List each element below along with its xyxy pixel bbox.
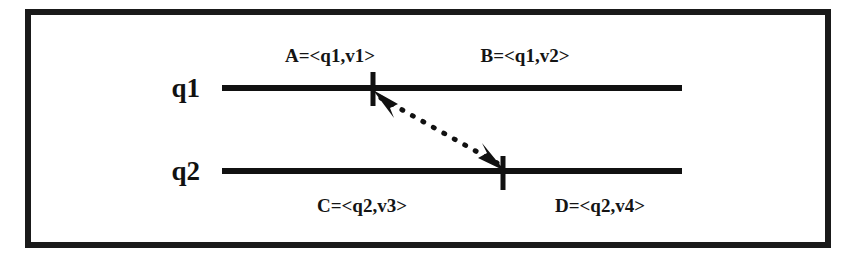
interval-label-d: D=<q2,v4> (555, 195, 645, 216)
timeline-diagram: q1 q2 A=<q1,v1> B=<q1,v2> C=<q2,v3> D=<q… (0, 0, 857, 262)
timeline-label-q2: q2 (171, 156, 200, 186)
interval-label-a: A=<q1,v1> (285, 45, 375, 66)
interval-label-c: C=<q2,v3> (317, 195, 407, 216)
timeline-label-q1: q1 (171, 73, 200, 103)
interval-label-b: B=<q1,v2> (481, 45, 570, 66)
figure-container: q1 q2 A=<q1,v1> B=<q1,v2> C=<q2,v3> D=<q… (0, 0, 857, 262)
figure-background (0, 0, 857, 262)
